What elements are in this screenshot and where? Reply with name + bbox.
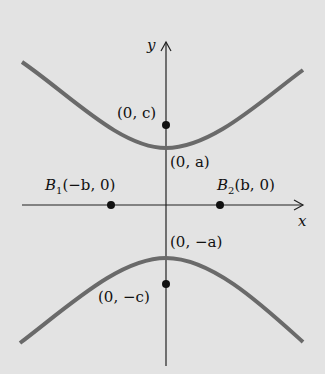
focus-bottom-label: (0, −c) [98,290,150,305]
hyperbola-upper-branch [22,62,303,148]
b2-name: B [217,176,228,194]
b1-name: B [45,176,56,194]
b2-label: B2(b, 0) [217,178,275,196]
focus-bottom-point [162,280,170,288]
y-axis-label: y [147,38,155,53]
x-axis-label: x [298,214,306,229]
b2-point [216,201,224,209]
b1-label: B1(−b, 0) [45,178,115,196]
vertex-top-label: (0, a) [170,155,210,170]
b2-coords: (b, 0) [234,176,274,194]
b1-point [107,201,115,209]
vertex-bottom-label: (0, −a) [170,235,222,250]
b1-coords: (−b, 0) [62,176,115,194]
focus-top-point [162,121,170,129]
focus-top-label: (0, c) [117,106,156,121]
hyperbola-lower-branch [20,258,303,343]
